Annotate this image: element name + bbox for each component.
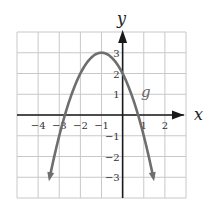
- x-tick-label: −2: [73, 120, 88, 131]
- y-axis-label: y: [116, 9, 127, 28]
- y-tick-label: 3: [113, 48, 119, 59]
- x-axis-label: x: [194, 105, 203, 124]
- graph-canvas: −4−3−2−112−3−2−1123 x y g: [0, 0, 209, 209]
- x-tick-label: 2: [162, 120, 168, 131]
- y-tick-label: −2: [105, 152, 120, 163]
- x-tick-label: −3: [52, 120, 67, 131]
- x-tick-label: −4: [31, 120, 46, 131]
- y-tick-label: −1: [105, 131, 120, 142]
- axes: [17, 30, 184, 198]
- y-tick-label: 2: [113, 69, 119, 80]
- x-tick-label: −1: [94, 120, 109, 131]
- function-label-g: g: [141, 83, 151, 101]
- y-tick-label: −3: [105, 172, 120, 183]
- y-tick-label: 1: [113, 89, 119, 100]
